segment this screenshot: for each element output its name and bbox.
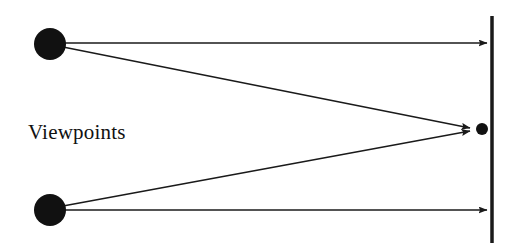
viewpoint-bottom-dot — [34, 194, 66, 226]
viewpoints-diagram: Viewpoints — [0, 0, 520, 250]
viewpoints-label: Viewpoints — [28, 120, 126, 144]
diagram-canvas: Viewpoints — [0, 0, 520, 250]
viewpoint-top-dot — [34, 28, 66, 60]
target-point-dot — [476, 123, 488, 135]
